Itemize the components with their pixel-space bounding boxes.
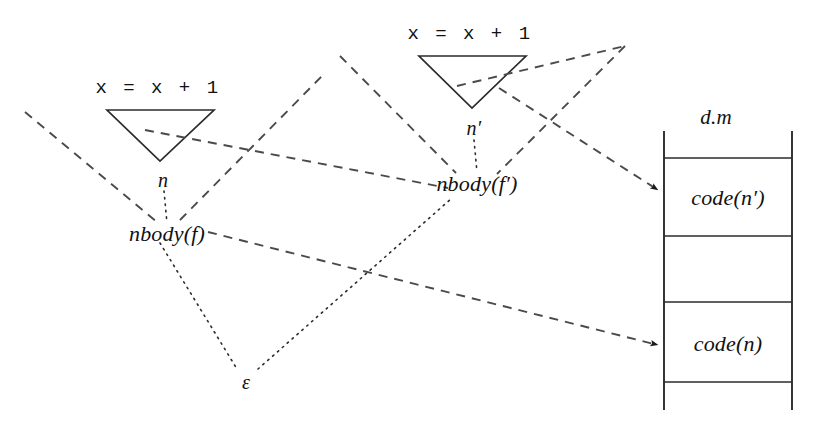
right-node-label: n′ <box>467 117 482 140</box>
memory-cell-code-n: code(n) <box>694 331 763 357</box>
diagram-canvas: x = x + 1 n nbody(f) x = x + 1 n′ nbody(… <box>0 0 823 432</box>
node-to-function-dotted-connectors <box>164 140 477 223</box>
left-procedure-code-text: x = x + 1 <box>95 77 220 99</box>
right-procedure-code-text: x = x + 1 <box>407 23 532 45</box>
memory-title-label: d.m <box>700 105 732 130</box>
memory-cell-code-nprime: code(n′) <box>691 185 765 211</box>
memory-write-arrows <box>208 88 658 345</box>
diagram-vector-layer <box>0 0 823 432</box>
memory-table <box>664 131 792 410</box>
left-node-label: n <box>158 169 168 192</box>
right-function-label: nbody(f′) <box>436 171 517 197</box>
left-procedure-triangle <box>107 110 214 161</box>
closure-dashed-links <box>25 46 625 222</box>
environment-label: ε <box>242 371 250 394</box>
left-function-label: nbody(f) <box>129 221 205 247</box>
